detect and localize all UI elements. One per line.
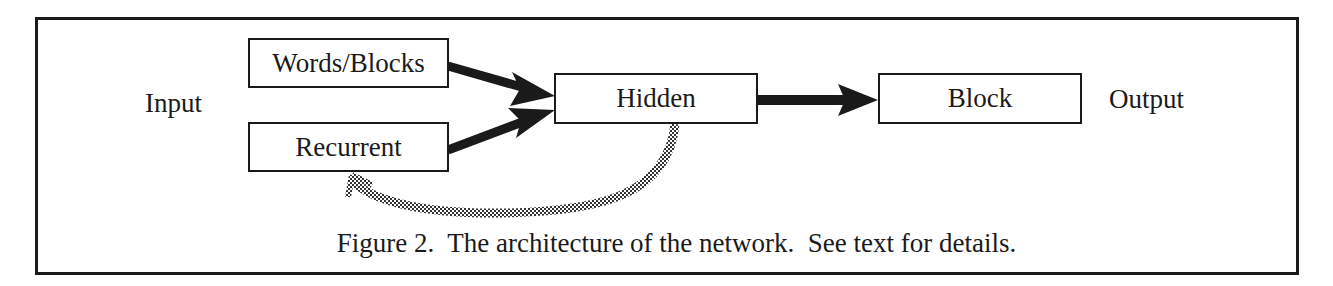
arrow-recurrent-to-hidden bbox=[448, 108, 555, 150]
node-block: Block bbox=[878, 73, 1082, 124]
node-recurrent-label: Recurrent bbox=[295, 132, 401, 163]
node-block-label: Block bbox=[948, 83, 1013, 114]
arrow-hidden-to-block bbox=[757, 84, 878, 116]
output-label: Output bbox=[1109, 84, 1184, 115]
node-recurrent: Recurrent bbox=[248, 122, 449, 172]
node-hidden: Hidden bbox=[554, 73, 758, 124]
arrow-words-to-hidden bbox=[448, 66, 555, 106]
figure-caption: Figure 2. The architecture of the networ… bbox=[0, 228, 1333, 259]
node-hidden-label: Hidden bbox=[616, 83, 695, 114]
input-label: Input bbox=[145, 88, 202, 119]
node-words-blocks-label: Words/Blocks bbox=[272, 48, 424, 79]
node-words-blocks: Words/Blocks bbox=[248, 38, 449, 88]
